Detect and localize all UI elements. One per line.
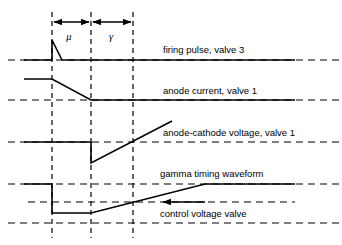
vertical-timing-markers [52,12,133,238]
trace-firing-pulse-valve-3 [24,40,295,60]
firing-pulse-waveform [24,40,295,60]
label-control-voltage-valve: control voltage valve [160,208,247,219]
label-anode-current-valve-1: anode current, valve 1 [163,85,257,96]
label-anode-cathode-voltage-valve-1: anode-cathode voltage, valve 1 [163,127,295,138]
timing-diagram-canvas: μ γ firing pulse, valve 3 anode current,… [0,0,342,245]
label-firing-pulse-valve-3: firing pulse, valve 3 [163,44,244,55]
waveform-diagram: μ γ firing pulse, valve 3 anode current,… [0,0,342,245]
mu-dimension-label: μ [65,31,71,42]
gamma-dimension-label: γ [109,31,114,42]
label-gamma-timing-waveform: gamma timing waveform [160,168,264,179]
